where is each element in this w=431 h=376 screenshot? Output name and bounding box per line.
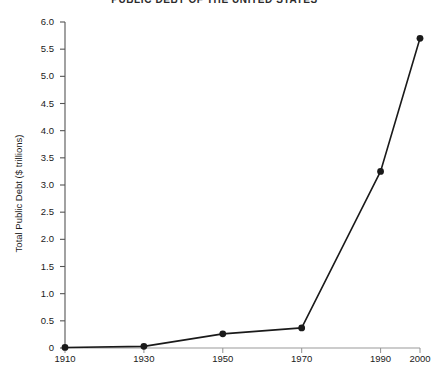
data-series xyxy=(62,35,424,351)
y-axis-ticks xyxy=(60,22,65,348)
x-axis-ticks xyxy=(65,348,420,353)
data-point-marker xyxy=(140,343,147,350)
data-point-marker xyxy=(62,344,69,351)
data-point-marker xyxy=(417,35,424,42)
series-line xyxy=(65,38,420,347)
data-point-marker xyxy=(219,330,226,337)
axes xyxy=(65,22,420,348)
data-point-marker xyxy=(298,325,305,332)
data-point-marker xyxy=(377,168,384,175)
